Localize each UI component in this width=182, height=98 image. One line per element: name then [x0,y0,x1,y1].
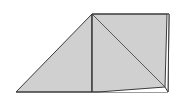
left-triangle [16,14,92,92]
geometry-diagram [0,0,182,98]
